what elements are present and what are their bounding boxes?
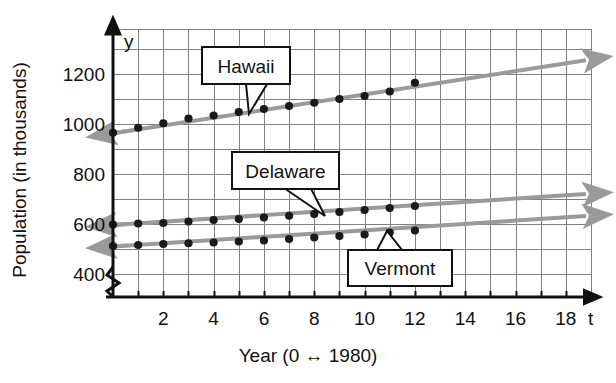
y-tick-label: 400 (73, 264, 105, 285)
data-point (310, 233, 318, 241)
callout-label: Hawaii (217, 56, 274, 77)
data-point (310, 99, 318, 107)
data-point (134, 219, 142, 227)
y-axis-symbol: y (124, 31, 134, 52)
callout-label: Vermont (365, 258, 436, 279)
x-tick-label: 14 (455, 308, 477, 329)
data-point (159, 119, 167, 127)
x-tick-label: 8 (309, 308, 320, 329)
data-point (411, 226, 419, 234)
x-axis-title: Year (0 ↔ 1980) (239, 345, 378, 366)
data-point (260, 213, 268, 221)
data-point (386, 204, 394, 212)
data-point (159, 219, 167, 227)
x-tick-label: 16 (505, 308, 526, 329)
data-point (411, 79, 419, 87)
data-point (235, 108, 243, 116)
x-tick-label: 4 (208, 308, 219, 329)
chart-container: 24681012141618 40060080010001200 y t Yea… (0, 0, 616, 383)
y-tick-label: 1200 (63, 64, 105, 85)
data-point (134, 241, 142, 249)
data-point (184, 217, 192, 225)
data-point (360, 206, 368, 214)
data-point (335, 208, 343, 216)
x-tick-label: 6 (259, 308, 270, 329)
data-point (335, 95, 343, 103)
data-point (285, 235, 293, 243)
x-tick-label: 18 (555, 308, 576, 329)
population-line-chart: 24681012141618 40060080010001200 y t Yea… (0, 0, 616, 383)
data-point (210, 216, 218, 224)
data-point (235, 215, 243, 223)
data-point (260, 105, 268, 113)
y-tick-label: 600 (73, 214, 105, 235)
x-axis-symbol: t (588, 308, 594, 329)
data-point (360, 230, 368, 238)
x-tick-label: 2 (158, 308, 169, 329)
data-point (134, 124, 142, 132)
data-point (386, 87, 394, 95)
data-point (210, 111, 218, 119)
y-tick-label: 1000 (63, 114, 105, 135)
data-point (184, 239, 192, 247)
data-point (184, 114, 192, 122)
data-point (235, 237, 243, 245)
data-point (285, 212, 293, 220)
data-point (335, 232, 343, 240)
y-axis-title: Population (in thousands) (9, 62, 30, 277)
data-point (159, 240, 167, 248)
callout-label: Delaware (245, 161, 325, 182)
y-tick-label: 800 (73, 164, 105, 185)
x-tick-label: 12 (404, 308, 425, 329)
x-tick-label: 10 (354, 308, 375, 329)
data-point (210, 238, 218, 246)
data-point (285, 102, 293, 110)
data-point (411, 202, 419, 210)
data-point (260, 236, 268, 244)
data-point (360, 92, 368, 100)
